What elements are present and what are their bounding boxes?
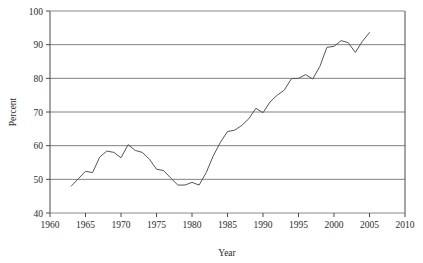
x-tick-label-group: 1960196519701975198019851990199520002005… — [41, 220, 415, 230]
y-tick-group — [46, 11, 50, 213]
y-tick-label-90: 90 — [34, 40, 44, 50]
x-tick-label-1965: 1965 — [76, 220, 95, 230]
x-tick-label-2005: 2005 — [360, 220, 379, 230]
x-tick-label-1980: 1980 — [183, 220, 202, 230]
y-tick-label-100: 100 — [29, 7, 44, 17]
x-axis-title: Year — [218, 248, 236, 258]
y-tick-label-group: 405060708090100 — [29, 7, 44, 219]
x-tick-label-1975: 1975 — [147, 220, 166, 230]
x-tick-label-1985: 1985 — [218, 220, 237, 230]
y-tick-label-80: 80 — [34, 74, 44, 84]
y-tick-label-60: 60 — [34, 141, 44, 151]
x-tick-label-2010: 2010 — [396, 220, 415, 230]
x-tick-label-2000: 2000 — [325, 220, 344, 230]
y-tick-label-40: 40 — [34, 209, 44, 219]
line-chart: 405060708090100 196019651970197519801985… — [0, 0, 423, 263]
y-tick-label-50: 50 — [34, 175, 44, 185]
y-axis-title: Percent — [8, 97, 18, 126]
x-tick-label-1990: 1990 — [254, 220, 273, 230]
x-tick-label-1995: 1995 — [289, 220, 308, 230]
x-tick-group — [50, 213, 405, 217]
x-tick-label-1960: 1960 — [41, 220, 60, 230]
y-tick-label-70: 70 — [34, 108, 44, 118]
x-tick-label-1970: 1970 — [112, 220, 131, 230]
chart-container: 405060708090100 196019651970197519801985… — [0, 0, 423, 263]
